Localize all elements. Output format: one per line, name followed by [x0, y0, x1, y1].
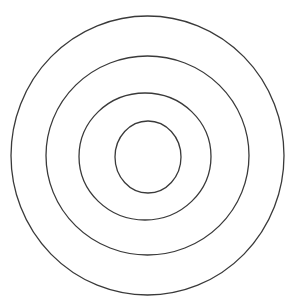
concentric-circles-canvas — [0, 0, 292, 306]
second-ring-ellipse — [46, 56, 249, 255]
inner-circle-ellipse — [115, 121, 181, 193]
third-ring-ellipse — [79, 93, 211, 220]
outer-ring-ellipse — [11, 16, 284, 295]
concentric-circles-diagram — [0, 0, 292, 306]
